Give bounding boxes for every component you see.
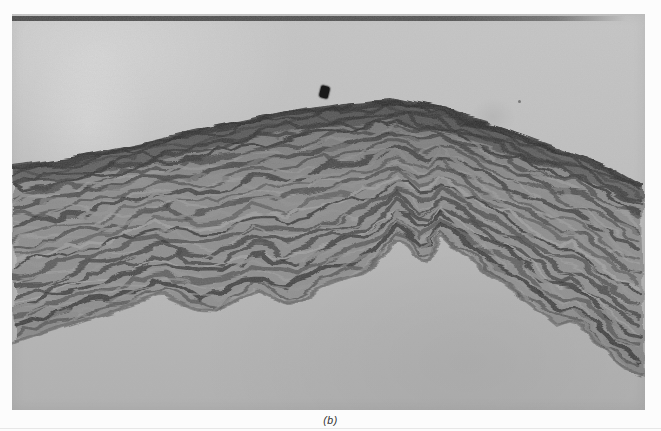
figure-caption: (b) bbox=[0, 412, 661, 428]
film-grain bbox=[12, 14, 645, 410]
tissue-band-svg bbox=[12, 14, 645, 410]
dust-dot bbox=[518, 100, 521, 103]
scan-line bbox=[0, 428, 661, 429]
micrograph-photo bbox=[12, 14, 645, 410]
page: { "figure": { "caption": "(b)", "kind": … bbox=[0, 0, 661, 431]
dust-dot bbox=[413, 126, 415, 128]
